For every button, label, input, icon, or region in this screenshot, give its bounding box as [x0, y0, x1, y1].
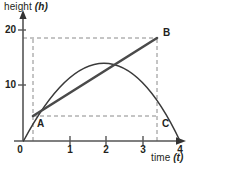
y-axis-title-variable: (h) [35, 1, 48, 12]
x-tick-label-2: 2 [100, 144, 112, 155]
x-tick-label-1: 1 [64, 144, 76, 155]
y-tick-label-10: 10 [0, 79, 16, 90]
y-axis [18, 10, 27, 141]
point-label-C: C [162, 118, 169, 129]
y-axis-title-text: height [4, 1, 32, 12]
x-axis-title-text: time [151, 152, 170, 163]
secant-line-AB [33, 38, 157, 116]
point-label-A: A [37, 118, 44, 129]
coordinate-plot [0, 0, 235, 171]
x-tick-label-3: 3 [137, 144, 149, 155]
x-tick-label-4: 4 [174, 144, 186, 155]
y-axis-title: height (h) [4, 1, 48, 12]
y-tick-label-20: 20 [0, 24, 16, 35]
point-label-B: B [163, 27, 170, 38]
x-tick-label-0: 0 [14, 144, 26, 155]
